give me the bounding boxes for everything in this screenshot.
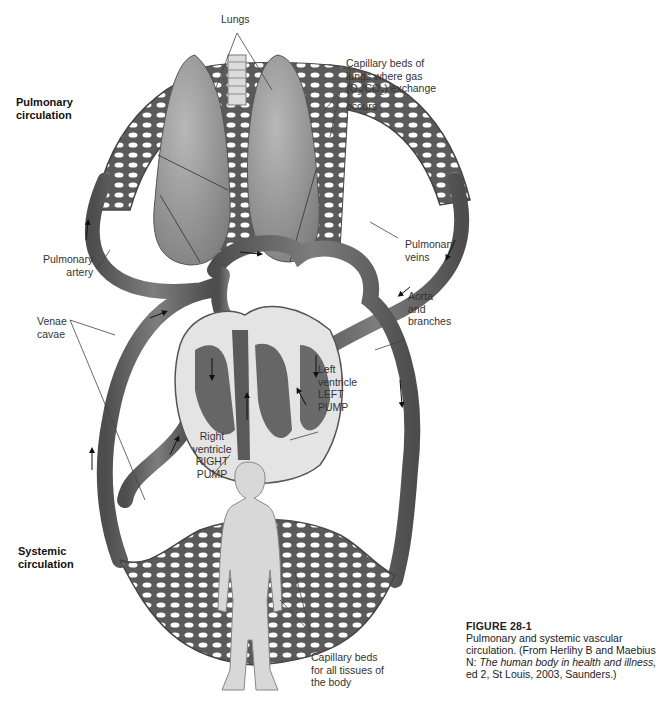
caption-book-title: The human body in health and illness, xyxy=(479,656,656,668)
label-line: RIGHT xyxy=(187,455,237,468)
title-line: circulation xyxy=(18,558,74,571)
systemic-circulation-title: Systemic circulation xyxy=(18,545,74,571)
label-line: artery xyxy=(43,266,93,279)
trachea xyxy=(228,55,246,105)
circulation-diagram xyxy=(0,0,668,703)
label-line: Aorta xyxy=(408,290,451,303)
label-line: for all tissues of xyxy=(311,664,384,677)
caption-tail: ed 2, St Louis, 2003, Saunders.) xyxy=(466,668,617,680)
label-line: LEFT xyxy=(318,388,357,401)
label-line: veins xyxy=(405,251,455,264)
label-line: lungs where gas xyxy=(346,70,436,83)
label-line: Venae xyxy=(37,315,67,328)
label-line: ventricle xyxy=(318,376,357,389)
label-pulmonary-artery: Pulmonary artery xyxy=(43,253,93,278)
label-line: (O2/CO2) exchange xyxy=(346,82,436,100)
label-line: Pulmonary xyxy=(405,238,455,251)
figure-caption: FIGURE 28-1 Pulmonary and systemic vascu… xyxy=(466,620,666,680)
title-line: Pulmonary xyxy=(16,96,73,109)
label-lungs: Lungs xyxy=(221,13,250,26)
label-line: Pulmonary xyxy=(43,253,93,266)
label-line: Capillary beds xyxy=(311,651,384,664)
label-line: occurs xyxy=(346,100,436,113)
label-pulmonary-veins: Pulmonary veins xyxy=(405,238,455,263)
label-line: PUMP xyxy=(318,401,357,414)
label-right-ventricle: Right ventricle RIGHT PUMP xyxy=(187,430,237,480)
label-line: cavae xyxy=(37,328,67,341)
title-line: circulation xyxy=(16,109,73,122)
figure-number: FIGURE 28-1 xyxy=(466,620,666,632)
title-line: Systemic xyxy=(18,545,74,558)
label-line: Right xyxy=(187,430,237,443)
label-line: the body xyxy=(311,676,384,689)
label-venae-cavae: Venae cavae xyxy=(37,315,67,340)
label-line: Lungs xyxy=(221,13,250,26)
label-capillary-body: Capillary beds for all tissues of the bo… xyxy=(311,651,384,689)
label-line: ventricle xyxy=(187,443,237,456)
label-line: branches xyxy=(408,315,451,328)
label-aorta: Aorta and branches xyxy=(408,290,451,328)
label-line: and xyxy=(408,303,451,316)
label-line: Capillary beds of xyxy=(346,57,436,70)
label-capillary-lungs: Capillary beds of lungs where gas (O2/CO… xyxy=(346,57,436,112)
pulmonary-circulation-title: Pulmonary circulation xyxy=(16,96,73,122)
label-line: Left xyxy=(318,363,357,376)
label-line: PUMP xyxy=(187,468,237,481)
label-left-ventricle: Left ventricle LEFT PUMP xyxy=(318,363,357,413)
